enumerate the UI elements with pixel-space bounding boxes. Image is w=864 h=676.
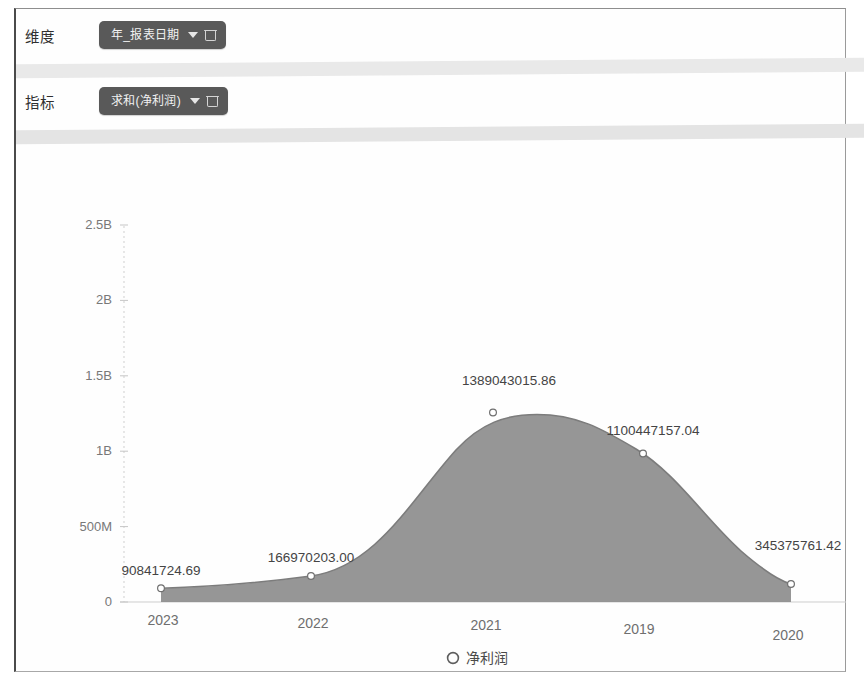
y-tick-label: 1.5B (85, 368, 112, 383)
y-tick-3: 1.5B (85, 368, 128, 383)
x-category-label: 2019 (623, 621, 654, 637)
chevron-down-icon[interactable] (188, 32, 198, 38)
y-tick-label: 2B (96, 292, 112, 307)
y-axis-ticks: 0 500M 1B 1.5B 2B 2.5B (79, 217, 128, 609)
measure-chip-sum-net-profit[interactable]: 求和(净利润) (99, 87, 228, 115)
data-point-marker[interactable] (640, 450, 647, 457)
y-tick-4: 2B (96, 292, 128, 307)
dimension-chip-label: 年_报表日期 (111, 29, 179, 41)
data-label: 90841724.69 (122, 563, 201, 578)
data-label: 166970203.00 (268, 550, 354, 565)
y-tick-label: 500M (79, 519, 112, 534)
data-point-marker[interactable] (788, 581, 795, 588)
chart-legend[interactable]: 净利润 (448, 650, 508, 666)
y-tick-label: 1B (96, 443, 112, 458)
data-point-marker[interactable] (158, 585, 165, 592)
trash-icon[interactable] (205, 29, 216, 41)
chevron-down-icon[interactable] (190, 98, 200, 104)
area-fill (161, 415, 791, 603)
area-chart[interactable]: 0 500M 1B 1.5B 2B 2.5B (16, 150, 862, 670)
x-category-label: 2022 (297, 615, 328, 631)
y-tick-2: 1B (96, 443, 128, 458)
shelf-row-measure: 指标 求和(净利润) (16, 75, 864, 127)
x-category-label: 2020 (772, 627, 803, 643)
shelf-panel: 维度 年_报表日期 指标 求和(净利润) (16, 9, 864, 147)
y-tick-label: 0 (105, 594, 112, 609)
shelf-row-dimension: 维度 年_报表日期 (16, 9, 864, 61)
x-axis-categories: 2023 2022 2021 2019 2020 (147, 612, 803, 643)
trash-icon[interactable] (207, 95, 218, 107)
shelf-label-dimension: 维度 (25, 25, 99, 46)
shelf-label-measure: 指标 (25, 91, 99, 112)
x-category-label: 2023 (147, 612, 178, 628)
y-tick-0: 0 (105, 594, 128, 609)
data-label: 1389043015.86 (462, 373, 556, 388)
data-label: 1100447157.04 (607, 423, 700, 438)
y-tick-5: 2.5B (85, 217, 128, 232)
x-category-label: 2021 (470, 617, 501, 633)
dimension-chip-year-report-date[interactable]: 年_报表日期 (99, 21, 226, 49)
data-label: 345375761.42 (755, 538, 841, 553)
measure-chip-label: 求和(净利润) (111, 95, 181, 107)
data-point-marker[interactable] (308, 573, 315, 580)
y-tick-1: 500M (79, 519, 128, 534)
data-point-marker[interactable] (490, 409, 497, 416)
circle-open-icon (448, 653, 459, 664)
y-tick-label: 2.5B (85, 217, 112, 232)
chart-container: 0 500M 1B 1.5B 2B 2.5B (16, 150, 862, 670)
legend-label: 净利润 (466, 650, 508, 666)
